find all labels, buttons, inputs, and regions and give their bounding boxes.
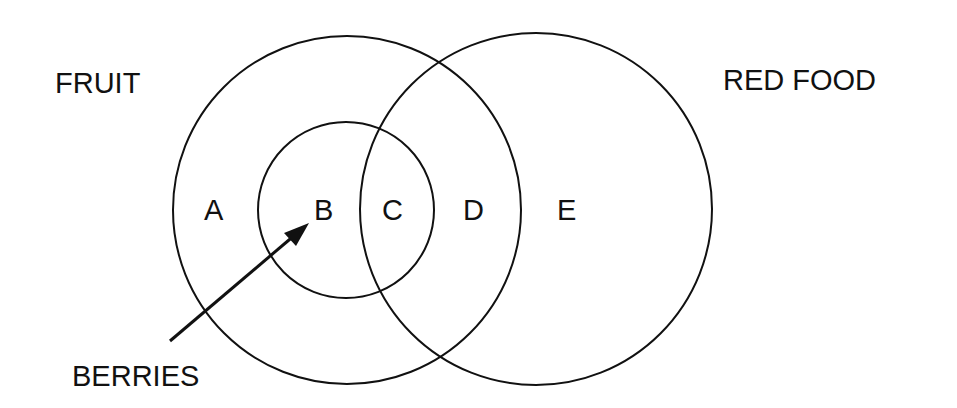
region-c-label: C: [382, 196, 403, 225]
region-e-label: E: [557, 196, 576, 225]
fruit-label: FRUIT: [55, 69, 140, 98]
berries-label: BERRIES: [72, 362, 199, 391]
red-food-circle: [360, 33, 712, 385]
region-d-label: D: [463, 196, 484, 225]
berries-circle: [258, 122, 434, 298]
berries-arrow: [170, 223, 309, 341]
red-food-label: RED FOOD: [723, 66, 876, 95]
region-a-label: A: [204, 196, 223, 225]
region-b-label: B: [314, 196, 333, 225]
